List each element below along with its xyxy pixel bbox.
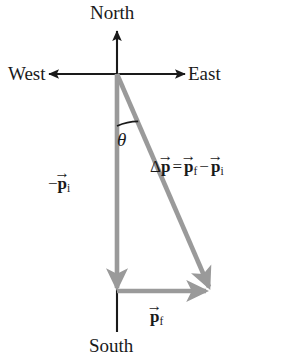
p-glyph: p	[184, 157, 193, 176]
minus-sign: −	[197, 157, 211, 176]
p-glyph: p	[150, 307, 159, 326]
angle-label-theta: θ	[117, 130, 126, 149]
vector-delta-p	[117, 74, 209, 287]
subscript-i: i	[220, 165, 223, 178]
compass-label-west: West	[8, 64, 46, 83]
delta-p-vector-symbol: →p	[161, 158, 170, 175]
compass-label-south: South	[89, 336, 133, 355]
subscript-f: f	[159, 315, 163, 328]
compass-label-north: North	[90, 3, 134, 22]
p-final-vector-symbol: →p	[184, 158, 193, 175]
subscript-i: i	[67, 182, 70, 195]
compass-label-east: East	[188, 64, 221, 83]
vector-canvas	[0, 0, 281, 361]
vector-diagram: ath.	[0, 0, 281, 361]
p-glyph: p	[211, 157, 220, 176]
label-p-final: →pf	[150, 308, 163, 327]
p-glyph: p	[161, 157, 170, 176]
p-initial-vector-symbol: →p	[58, 175, 67, 192]
angle-arc	[117, 121, 138, 126]
p-glyph: p	[58, 174, 67, 193]
equals-sign: =	[170, 157, 184, 176]
p-initial-vector-symbol: →p	[211, 158, 220, 175]
label-neg-p-initial: −→pi	[48, 175, 70, 194]
delta-symbol: Δ	[150, 157, 161, 176]
p-final-vector-symbol: →p	[150, 308, 159, 325]
minus-sign: −	[48, 174, 58, 193]
momentum-vectors	[117, 74, 209, 291]
label-delta-p-equation: Δ→p=→pf−→pi	[150, 158, 224, 177]
